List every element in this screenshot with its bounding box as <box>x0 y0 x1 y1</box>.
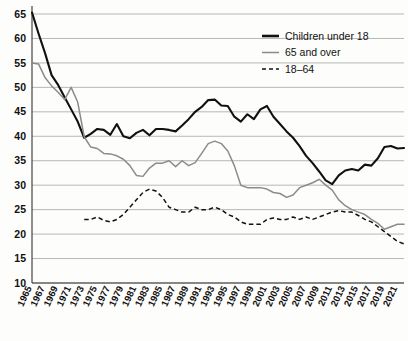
series-line-2 <box>32 63 404 229</box>
x-tick-label-2021: 2021 <box>380 284 399 308</box>
y-axis-tick-labels: 101520253035404550556065 <box>14 8 26 289</box>
gridlines <box>32 14 404 283</box>
y-tick-label-25: 25 <box>14 203 26 215</box>
y-tick-label-50: 50 <box>14 81 26 93</box>
legend-label-1: Children under 18 <box>285 30 369 42</box>
y-tick-label-55: 55 <box>14 57 26 69</box>
y-tick-label-15: 15 <box>14 252 26 264</box>
y-tick-label-45: 45 <box>14 105 26 117</box>
chart-legend: Children under 1865 and over18–64 <box>262 30 369 75</box>
data-series-group <box>32 13 404 244</box>
y-tick-label-30: 30 <box>14 179 26 191</box>
chart-canvas: 101520253035404550556065 196519671969197… <box>0 0 408 341</box>
y-tick-label-65: 65 <box>14 8 26 20</box>
x-axis-tick-labels: 1965196719691971197319751977197919811983… <box>15 284 400 308</box>
y-tick-label-40: 40 <box>14 130 26 142</box>
y-tick-label-60: 60 <box>14 32 26 44</box>
line-chart: 101520253035404550556065 196519671969197… <box>0 0 408 341</box>
y-tick-label-20: 20 <box>14 228 26 240</box>
y-tick-label-35: 35 <box>14 154 26 166</box>
legend-label-2: 65 and over <box>285 46 341 58</box>
series-line-3 <box>84 189 404 244</box>
legend-label-3: 18–64 <box>285 63 314 75</box>
